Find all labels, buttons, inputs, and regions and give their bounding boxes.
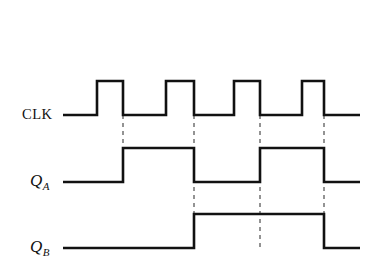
qb-label-subscript: B [43, 246, 50, 258]
clk-label: CLK [22, 106, 53, 122]
timing-diagram-canvas: CLK QA QB [0, 0, 388, 272]
qb-label-main: Q [30, 237, 43, 256]
qa-label-main: Q [30, 171, 43, 190]
timing-diagram-figure: CLK QA QB [0, 0, 388, 272]
qa-label-subscript: A [42, 180, 50, 192]
